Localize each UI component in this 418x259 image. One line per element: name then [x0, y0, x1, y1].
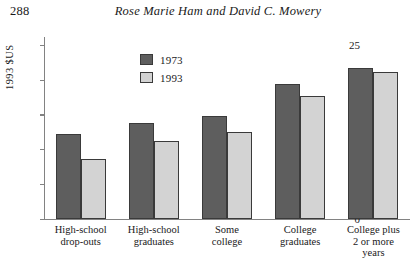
- y-tick-25: [40, 45, 45, 46]
- bar-1973-4: [348, 68, 373, 219]
- y-tick-10: [40, 149, 45, 150]
- y-tick-15: [40, 114, 45, 115]
- y-tick-20: [40, 80, 45, 81]
- bar-1973-2: [202, 116, 227, 218]
- bar-1993-2: [227, 132, 252, 218]
- bar-1993-1: [154, 141, 179, 218]
- y-axis-title: 1993 $US: [4, 45, 15, 91]
- bar-chart-figure: 1993 $US 0510152025 19731993 High-school…: [0, 24, 418, 253]
- y-tick-5: [40, 184, 45, 185]
- bar-group: [202, 32, 252, 211]
- bar-1993-4: [373, 72, 398, 218]
- bar-group: [129, 32, 179, 211]
- bar-1973-3: [275, 84, 300, 219]
- bar-1993-3: [300, 96, 325, 219]
- category-label: College plus2 or moreyears: [327, 224, 418, 259]
- bar-group: [348, 32, 398, 211]
- y-tick-0: [40, 219, 45, 220]
- bar-1993-0: [81, 159, 106, 219]
- bar-1973-0: [56, 134, 81, 219]
- bar-group: [56, 32, 106, 211]
- y-axis-line: [44, 37, 45, 219]
- bar-1973-1: [129, 123, 154, 218]
- plot-area: 0510152025 19731993 High-schooldrop-outs…: [44, 32, 410, 211]
- bar-group: [275, 32, 325, 211]
- page-header: 288 Rose Marie Ham and David C. Mowery: [0, 4, 418, 20]
- running-head-title: Rose Marie Ham and David C. Mowery: [0, 4, 418, 19]
